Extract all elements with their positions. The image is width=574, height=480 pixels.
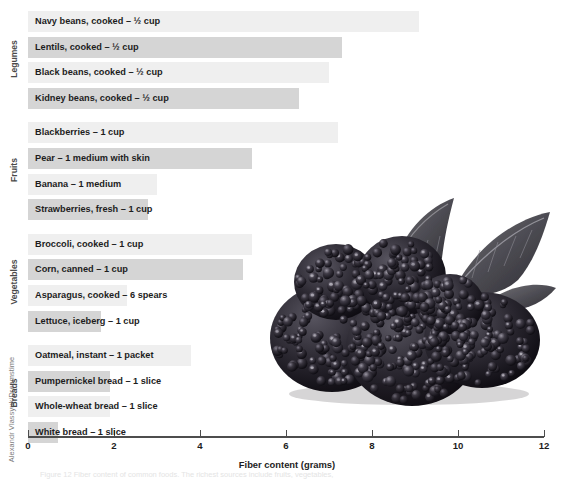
bar-row: Lettuce, iceberg – 1 cup bbox=[28, 311, 101, 332]
group-label-vegetables: Vegetables bbox=[9, 233, 19, 331]
bar-row: Strawberries, fresh – 1 cup bbox=[28, 199, 148, 220]
x-tick-label: 4 bbox=[185, 440, 215, 451]
figure-caption: Figure 12 Fiber content of common foods.… bbox=[40, 470, 540, 479]
bar-label: Pear – 1 medium with skin bbox=[35, 148, 150, 169]
x-tick bbox=[544, 430, 545, 437]
x-tick-label: 6 bbox=[271, 440, 301, 451]
bar-label: Lentils, cooked – ½ cup bbox=[35, 37, 139, 58]
x-axis-title: Fiber content (grams) bbox=[0, 459, 574, 470]
bar-label: Oatmeal, instant – 1 packet bbox=[35, 345, 153, 366]
bar-row: Oatmeal, instant – 1 packet bbox=[28, 345, 191, 366]
bar-label: Navy beans, cooked – ½ cup bbox=[35, 11, 160, 32]
bar-row: Banana – 1 medium bbox=[28, 174, 157, 195]
x-tick bbox=[372, 430, 373, 437]
bar-row: Navy beans, cooked – ½ cup bbox=[28, 11, 419, 32]
x-tick bbox=[458, 430, 459, 437]
bar-row: Kidney beans, cooked – ½ cup bbox=[28, 88, 299, 109]
bar-row: Whole-wheat bread – 1 slice bbox=[28, 396, 110, 417]
bar-label: Whole-wheat bread – 1 slice bbox=[35, 396, 158, 417]
x-tick-label: 12 bbox=[529, 440, 559, 451]
bar-label: Blackberries – 1 cup bbox=[35, 122, 124, 143]
group-label-fruits: Fruits bbox=[9, 121, 19, 219]
bar-row: Broccoli, cooked – 1 cup bbox=[28, 234, 252, 255]
chart-plot-area: Navy beans, cooked – ½ cupLentils, cooke… bbox=[0, 0, 574, 432]
x-tick-label: 10 bbox=[443, 440, 473, 451]
bar-label: Pumpernickel bread – 1 slice bbox=[35, 371, 161, 392]
bar-label: Corn, canned – 1 cup bbox=[35, 259, 128, 280]
bar-row: Pear – 1 medium with skin bbox=[28, 148, 252, 169]
bar-row: Pumpernickel bread – 1 slice bbox=[28, 371, 110, 392]
bar-label: White bread – 1 slice bbox=[35, 422, 126, 443]
bar-row: Black beans, cooked – ½ cup bbox=[28, 62, 329, 83]
bar-row: Blackberries – 1 cup bbox=[28, 122, 338, 143]
group-label-breads: Breads bbox=[9, 344, 19, 442]
bar-label: Black beans, cooked – ½ cup bbox=[35, 62, 163, 83]
bar-label: Broccoli, cooked – 1 cup bbox=[35, 234, 143, 255]
x-tick bbox=[28, 430, 29, 437]
group-label-legumes: Legumes bbox=[9, 10, 19, 108]
x-tick-label: 8 bbox=[357, 440, 387, 451]
bar-label: Strawberries, fresh – 1 cup bbox=[35, 199, 152, 220]
bar-label: Banana – 1 medium bbox=[35, 174, 121, 195]
bar-row: Lentils, cooked – ½ cup bbox=[28, 37, 342, 58]
bar-label: Lettuce, iceberg – 1 cup bbox=[35, 311, 140, 332]
fiber-content-figure: Alexandr Vlassyuk/Dreamstime Navy beans,… bbox=[0, 0, 574, 480]
bar-label: Kidney beans, cooked – ½ cup bbox=[35, 88, 169, 109]
x-tick bbox=[286, 430, 287, 437]
bar-label: Asparagus, cooked – 6 spears bbox=[35, 285, 167, 306]
bar-row: Corn, canned – 1 cup bbox=[28, 259, 243, 280]
bar-row: Asparagus, cooked – 6 spears bbox=[28, 285, 127, 306]
x-tick bbox=[200, 430, 201, 437]
